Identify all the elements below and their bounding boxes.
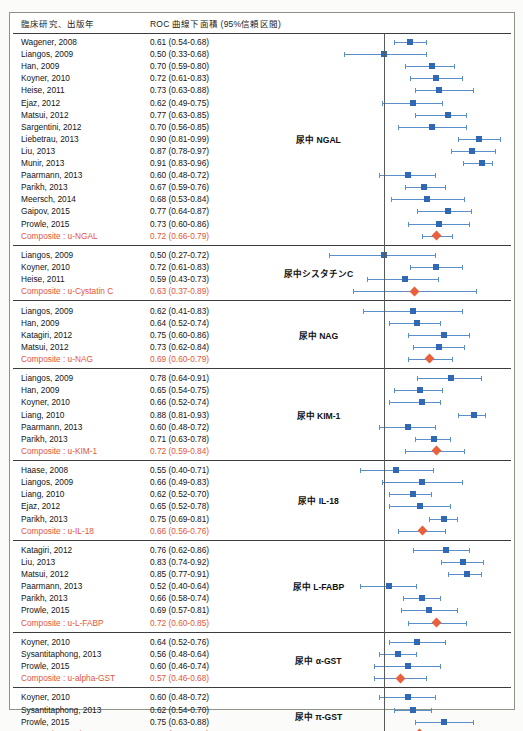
ci-cap-upper (495, 149, 496, 154)
study-square-marker (386, 583, 392, 589)
ci-cap-upper (450, 437, 451, 442)
ci-cap-lower (398, 125, 399, 130)
study-square-marker (395, 651, 401, 657)
study-square-marker (402, 276, 408, 282)
ci-cap-upper (473, 88, 474, 93)
ci-cap-upper (466, 621, 467, 626)
study-square-marker (460, 559, 466, 565)
ci-cap-lower (417, 209, 418, 214)
study-square-marker (405, 424, 411, 430)
ci-cap-upper (435, 695, 436, 700)
ci-cap-lower (389, 492, 390, 497)
study-square-marker (436, 87, 442, 93)
study-label: Heise, 2011 (21, 84, 65, 96)
study-label: Liu, 2013 (21, 556, 55, 568)
ci-cap-lower (415, 437, 416, 442)
ci-cap-lower (458, 413, 459, 418)
ci-cap-upper (469, 222, 470, 227)
table-row: Koyner, 20100.60 (0.48-0.72) (10, 691, 514, 703)
auc-value: 0.65 (0.52-0.78) (150, 500, 209, 512)
ci-cap-lower (413, 548, 414, 553)
ci-cap-lower (398, 529, 399, 534)
study-square-marker (436, 344, 442, 350)
ci-cap-upper (452, 357, 453, 362)
study-label: Ejaz, 2012 (21, 97, 60, 109)
ci-cap-lower (374, 676, 375, 681)
summary-diamond-marker (431, 446, 441, 456)
ci-cap-upper (426, 52, 427, 57)
auc-value: 0.57 (0.46-0.68) (150, 672, 209, 684)
confidence-interval-line (413, 550, 470, 551)
auc-value: 0.50 (0.27-0.72) (150, 249, 209, 261)
auc-value: 0.88 (0.81-0.93) (150, 409, 209, 421)
ci-cap-upper (445, 640, 446, 645)
study-label: Koyner, 2010 (21, 261, 70, 273)
study-label: Sysantitaphong, 2013 (21, 648, 101, 660)
ci-cap-upper (416, 584, 417, 589)
auc-value: 0.72 (0.61-0.83) (150, 261, 209, 273)
auc-value: 0.66 (0.58-0.74) (150, 592, 209, 604)
biomarker-group-label: 尿中 α-GST (253, 654, 384, 666)
study-label: Sysantitaphong, 2013 (21, 704, 101, 716)
study-square-marker (417, 503, 423, 509)
study-square-marker (445, 112, 451, 118)
auc-value: 0.87 (0.78-0.97) (150, 145, 209, 157)
composite-label: Composite : u-NAG (21, 353, 93, 365)
auc-value: 0.75 (0.60-0.86) (150, 329, 209, 341)
group-separator-rule (13, 687, 511, 688)
study-square-marker (441, 719, 447, 725)
biomarker-group-label: 尿中 NGAL (253, 133, 384, 145)
ci-cap-upper (492, 161, 493, 166)
study-label: Han, 2009 (21, 317, 59, 329)
study-label: Parikh, 2013 (21, 592, 68, 604)
ci-cap-lower (394, 708, 395, 713)
ci-cap-lower (408, 333, 409, 338)
ci-cap-upper (462, 309, 463, 314)
auc-value: 0.64 (0.52-0.76) (150, 636, 209, 648)
study-square-marker (431, 436, 437, 442)
ci-cap-lower (389, 504, 390, 509)
auc-value: 0.71 (0.63-0.78) (150, 433, 209, 445)
auc-value: 0.75 (0.69-0.81) (150, 513, 209, 525)
ci-cap-upper (464, 345, 465, 350)
auc-value: 0.69 (0.60-0.79) (150, 353, 209, 365)
ci-cap-upper (473, 720, 474, 725)
auc-value: 0.76 (0.62-0.86) (150, 544, 209, 556)
study-label: Matsui, 2012 (21, 568, 69, 580)
ci-cap-lower (410, 265, 411, 270)
auc-value: 0.67 (0.59-0.76) (150, 181, 209, 193)
study-square-marker (405, 663, 411, 669)
ci-cap-lower (441, 560, 442, 565)
ci-cap-upper (442, 388, 443, 393)
ci-cap-upper (442, 101, 443, 106)
study-square-marker (410, 308, 416, 314)
study-square-marker (419, 595, 425, 601)
study-square-marker (429, 124, 435, 130)
ci-cap-upper (435, 173, 436, 178)
auc-value: 0.78 (0.64-0.91) (150, 372, 209, 384)
ci-cap-lower (363, 309, 364, 314)
ci-cap-upper (483, 560, 484, 565)
study-square-marker (405, 694, 411, 700)
study-square-marker (433, 75, 439, 81)
confidence-interval-line (389, 402, 441, 403)
ci-cap-upper (481, 572, 482, 577)
study-label: Liangos, 2009 (21, 476, 73, 488)
auc-value: 0.66 (0.52-0.74) (150, 396, 209, 408)
summary-diamond-marker (417, 526, 427, 536)
study-square-marker (405, 172, 411, 178)
study-label: Liang, 2010 (21, 488, 64, 500)
auc-value: 0.55 (0.40-0.71) (150, 464, 209, 476)
composite-label: Composite : u-NGAL (21, 230, 98, 242)
auc-value: 0.64 (0.52-0.74) (150, 317, 209, 329)
summary-diamond-marker (424, 354, 434, 364)
study-square-marker (414, 320, 420, 326)
auc-value: 0.72 (0.66-0.79) (150, 230, 209, 242)
study-square-marker (476, 136, 482, 142)
study-square-marker (419, 479, 425, 485)
biomarker-group-label: 尿中 NAG (253, 329, 384, 341)
auc-value: 0.70 (0.59-0.80) (150, 60, 209, 72)
ci-cap-upper (462, 480, 463, 485)
study-square-marker (419, 399, 425, 405)
ci-cap-lower (405, 64, 406, 69)
